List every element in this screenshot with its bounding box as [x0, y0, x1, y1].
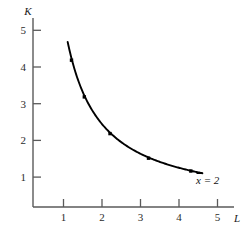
- x-tick-label-5: 5: [215, 211, 221, 223]
- y-tick-label-4: 4: [21, 61, 27, 73]
- data-point-marker: [147, 156, 150, 159]
- data-point-markers: [70, 59, 203, 174]
- isoquant-chart: 5 4 3 2 1 1 2 3 4 5 K L x =: [0, 0, 252, 237]
- x-tick-label-2: 2: [99, 211, 105, 223]
- x-axis-title: L: [233, 212, 240, 224]
- data-point-marker: [108, 132, 111, 135]
- y-axis-tick-labels: 5 4 3 2 1: [21, 24, 27, 183]
- x-tick-label-1: 1: [61, 211, 67, 223]
- data-point-marker: [70, 59, 73, 62]
- y-tick-label-1: 1: [21, 171, 27, 183]
- x-axis-ticks: [64, 199, 218, 207]
- y-tick-label-5: 5: [21, 24, 27, 36]
- y-axis-title: K: [23, 5, 32, 17]
- y-axis-ticks: [33, 30, 41, 177]
- curve-annotation-label: x = 2: [195, 174, 220, 186]
- isoquant-curve: [68, 42, 203, 173]
- x-tick-label-3: 3: [138, 211, 144, 223]
- x-tick-label-4: 4: [176, 211, 182, 223]
- y-tick-label-2: 2: [21, 134, 27, 146]
- chart-figure: 5 4 3 2 1 1 2 3 4 5 K L x =: [0, 0, 252, 237]
- y-tick-label-3: 3: [21, 98, 27, 110]
- data-point-marker: [83, 95, 86, 98]
- x-axis-tick-labels: 1 2 3 4 5: [61, 211, 221, 223]
- data-point-marker: [189, 169, 192, 172]
